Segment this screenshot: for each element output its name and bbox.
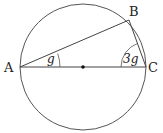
chord-ab — [20, 20, 129, 67]
circle-diagram: A B C g 3g — [0, 0, 163, 133]
label-a: A — [3, 60, 14, 75]
angle-label-c: 3g — [123, 52, 139, 66]
angle-label-a: g — [47, 52, 55, 66]
center-point — [81, 65, 85, 69]
angle-arc-a — [58, 54, 60, 68]
label-c: C — [148, 60, 158, 75]
label-b: B — [129, 4, 139, 19]
